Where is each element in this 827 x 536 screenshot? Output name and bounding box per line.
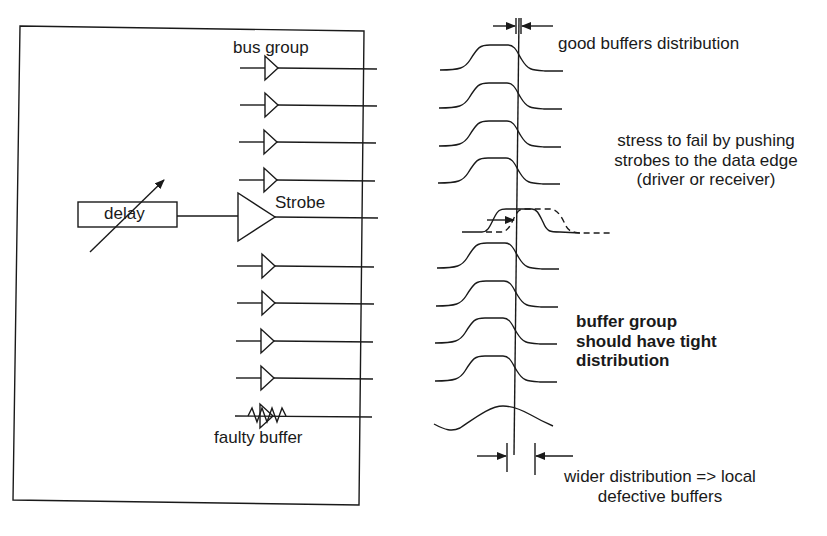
strobe-label: Strobe bbox=[275, 193, 325, 213]
strobe-buffer-icon bbox=[238, 193, 275, 241]
stress-waveform bbox=[462, 209, 610, 233]
bus-group-label: bus group bbox=[233, 38, 309, 58]
wider-distribution-label: wider distribution => local defective bu… bbox=[538, 467, 782, 506]
delay-label: delay bbox=[104, 204, 145, 224]
good-distribution-label: good buffers distribution bbox=[558, 34, 739, 54]
data-waveforms bbox=[435, 45, 563, 382]
diagram-canvas: bus group Strobe delay faulty buffer goo… bbox=[0, 0, 827, 536]
chip-outline bbox=[13, 26, 364, 505]
bus-buffers bbox=[236, 56, 377, 390]
stress-label-line-1: stress to fail by pushing bbox=[588, 131, 824, 151]
defective-waveform bbox=[434, 406, 553, 430]
stress-label-line-2: strobes to the data edge bbox=[588, 151, 824, 171]
tight-label-line-3: distribution bbox=[576, 351, 717, 371]
stress-label: stress to fail by pushing strobes to the… bbox=[588, 131, 824, 190]
stress-label-line-3: (driver or receiver) bbox=[588, 170, 824, 190]
tight-distribution-label: buffer group should have tight distribut… bbox=[576, 312, 717, 371]
faulty-buffer-label: faulty buffer bbox=[214, 428, 303, 448]
tight-label-line-2: should have tight bbox=[576, 332, 717, 352]
strobe-edge-line bbox=[514, 18, 519, 455]
wider-label-line-2: defective buffers bbox=[538, 487, 782, 507]
diagram-graphics bbox=[0, 0, 827, 536]
wider-label-line-1: wider distribution => local bbox=[538, 467, 782, 487]
tight-label-line-1: buffer group bbox=[576, 312, 717, 332]
faulty-buffer-icon bbox=[235, 404, 372, 428]
